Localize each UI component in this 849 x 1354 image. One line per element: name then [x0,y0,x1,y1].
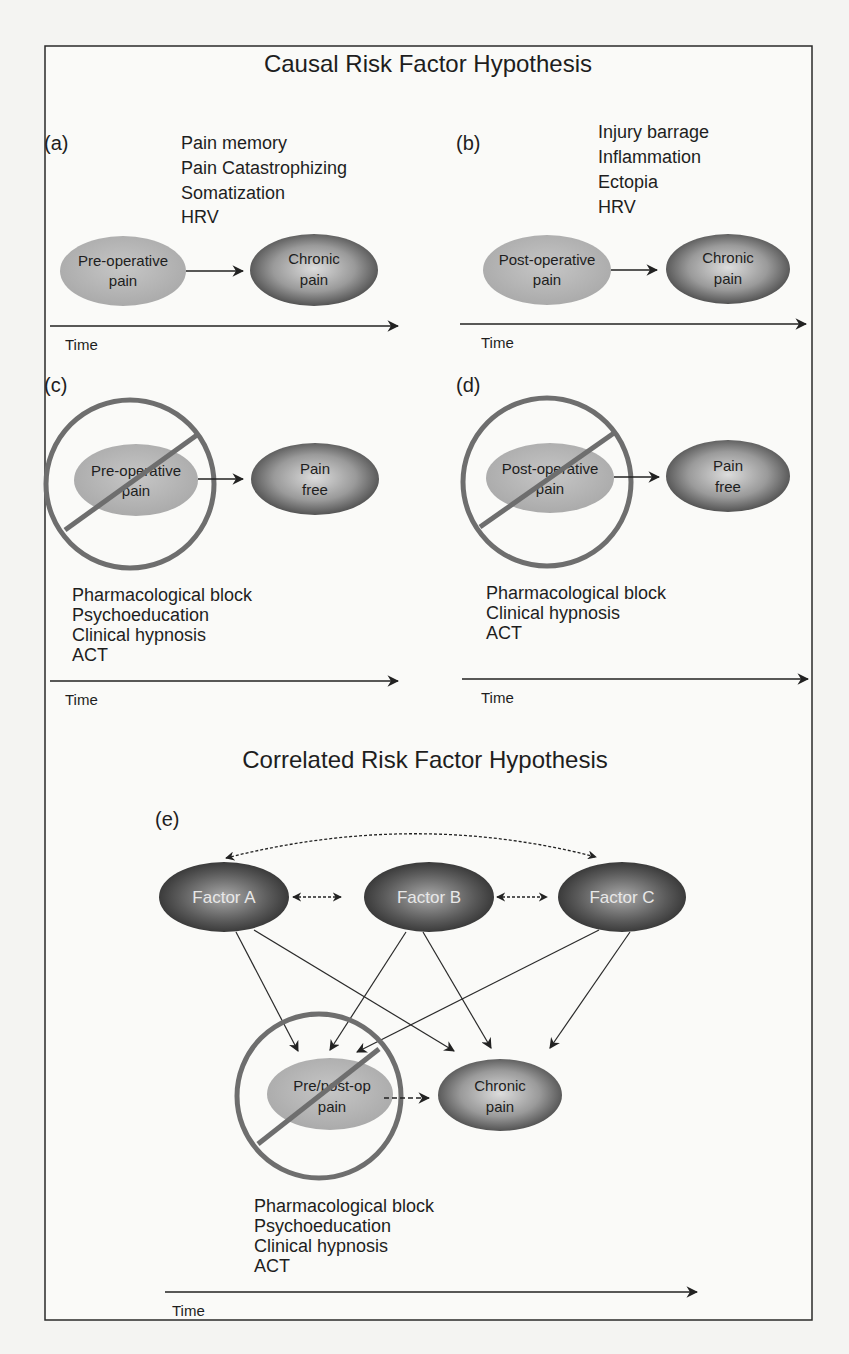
node-label: Post-operative [499,251,596,268]
intervention-item: Pharmacological block [72,585,253,605]
panel-label-d: (d) [456,374,480,396]
diagram-canvas: Causal Risk Factor Hypothesis (a) Pain m… [0,0,849,1354]
node-label: Chronic [288,250,340,267]
title-correlated: Correlated Risk Factor Hypothesis [242,746,607,773]
factor-item: Pain Catastrophizing [181,158,347,178]
factor-item: Somatization [181,183,285,203]
intervention-item: ACT [254,1256,290,1276]
factor-item: Inflammation [598,147,701,167]
node-chronic-pain [666,234,790,304]
node-label: pain [109,272,137,289]
node-label: Factor A [192,888,256,907]
node-chronic-pain [250,234,378,306]
time-label: Time [65,691,98,708]
node-label: pain [714,270,742,287]
node-label: pain [486,1098,514,1115]
factor-item: Injury barrage [598,122,709,142]
node-label: Chronic [474,1077,526,1094]
node-label: Pain [300,460,330,477]
node-pain-free [666,440,790,512]
time-label: Time [481,689,514,706]
node-label: Post-operative [502,460,599,477]
intervention-item: Pharmacological block [254,1196,435,1216]
node-label: Factor C [589,888,654,907]
factor-item: Pain memory [181,133,287,153]
figure-frame [45,46,812,1320]
node-label: free [715,478,741,495]
node-label: Pain [713,457,743,474]
title-causal: Causal Risk Factor Hypothesis [264,50,592,77]
node-pain-free [251,443,379,515]
factor-item: HRV [598,197,636,217]
intervention-item: Clinical hypnosis [72,625,206,645]
time-label: Time [65,336,98,353]
intervention-item: Clinical hypnosis [254,1236,388,1256]
intervention-item: Psychoeducation [254,1216,391,1236]
panel-label-a: (a) [44,132,68,154]
factor-item: Ectopia [598,172,659,192]
node-label: pain [533,271,561,288]
node-label: free [302,481,328,498]
factor-item: HRV [181,207,219,227]
node-label: Factor B [397,888,461,907]
node-label: pain [300,271,328,288]
node-label: Chronic [702,249,754,266]
node-label: Pre-operative [78,252,168,269]
intervention-item: Clinical hypnosis [486,603,620,623]
intervention-item: ACT [486,623,522,643]
node-preoperative-pain [60,236,186,306]
intervention-item: Psychoeducation [72,605,209,625]
intervention-item: Pharmacological block [486,583,667,603]
time-label: Time [172,1302,205,1319]
panel-label-b: (b) [456,132,480,154]
panel-label-c: (c) [44,374,67,396]
time-label: Time [481,334,514,351]
panel-label-e: (e) [155,808,179,830]
node-label: pain [318,1098,346,1115]
intervention-item: ACT [72,645,108,665]
node-postoperative-pain [483,235,611,305]
node-chronic-pain [438,1059,562,1131]
